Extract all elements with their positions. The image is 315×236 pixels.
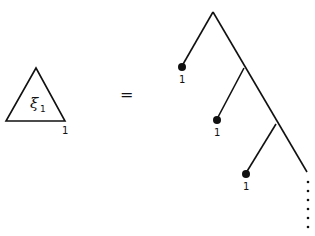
tree-branch-2 (217, 68, 244, 119)
tree-branch-1 (182, 12, 213, 66)
leaf-node-2 (213, 116, 221, 124)
leaf-node-3 (242, 170, 250, 178)
leaf-node-1 (178, 63, 186, 71)
tree-spine (213, 12, 307, 172)
rhs-comb-tree (182, 12, 307, 173)
leaf-label-3: 1 (243, 181, 249, 192)
triangle-corner-label: 1 (62, 125, 68, 136)
tree-leaves: 1 1 1 (178, 63, 250, 192)
diagram-canvas: ξ 1 1 = 1 1 1 (0, 0, 315, 236)
continuation-dots (307, 181, 310, 229)
lhs-tree-triangle: ξ 1 1 (6, 68, 68, 136)
triangle-symbol: ξ (30, 94, 39, 112)
equals-sign: = (120, 85, 133, 104)
tree-branch-3 (246, 124, 276, 173)
leaf-label-1: 1 (179, 74, 185, 85)
triangle-subscript: 1 (40, 104, 46, 114)
leaf-label-2: 1 (214, 127, 220, 138)
